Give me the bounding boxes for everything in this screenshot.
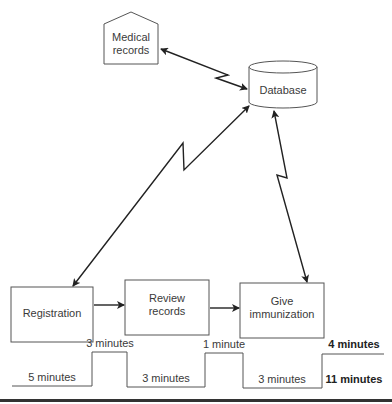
timeline-high-1: 3 minutes [80,337,140,350]
bottom-border [0,399,392,402]
timeline-low-3: 3 minutes [250,373,314,386]
timeline-total-low: 11 minutes [322,373,386,386]
timeline-high-2: 1 minute [196,338,252,351]
medical-records-label: Medical records [104,31,158,57]
registration-label: Registration [11,307,93,320]
timeline-low-1: 5 minutes [20,371,84,384]
give-immunization-line2: immunization [240,308,324,321]
immunization-database-link [274,111,307,282]
review-records-line1: Review [125,292,209,305]
give-immunization-label: Give immunization [240,295,324,321]
medical-records-line2: records [104,44,158,57]
registration-database-link [73,106,249,286]
timeline-total-high: 4 minutes [322,338,386,351]
medical-database-link [161,49,247,89]
timeline-low-2: 3 minutes [134,372,198,385]
give-immunization-line1: Give [240,295,324,308]
review-records-line2: records [125,305,209,318]
review-records-label: Review records [125,292,209,318]
medical-records-line1: Medical [104,31,158,44]
database-label: Database [249,84,317,97]
